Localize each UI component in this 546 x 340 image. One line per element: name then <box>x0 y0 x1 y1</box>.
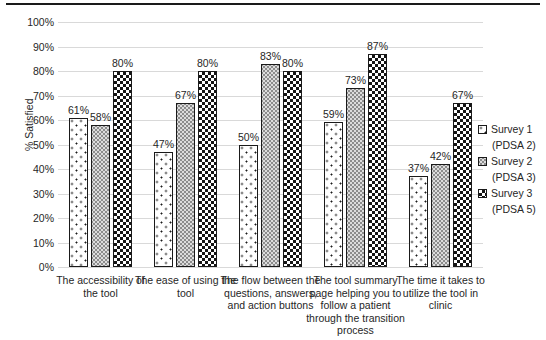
category-label-5: The time it takes to utilize the tool in… <box>385 274 497 312</box>
bar-value-label: 80% <box>112 58 133 69</box>
legend-entry-survey-1: Survey 1 <box>478 121 536 137</box>
bar-value-label: 67% <box>452 90 473 101</box>
bar-value-label: 61% <box>68 105 89 116</box>
legend-swatch-icon <box>478 125 487 134</box>
y-axis-tick-label: 80% <box>0 65 54 77</box>
legend-label: Survey 3 <box>491 185 532 201</box>
y-axis-tick-label: 90% <box>0 41 54 53</box>
bar-survey-1-cat4 <box>324 122 343 267</box>
bar-value-label: 58% <box>90 112 111 123</box>
y-axis-tick-label: 70% <box>0 90 54 102</box>
bar-value-label: 83% <box>260 51 281 62</box>
bar-survey-2-cat5 <box>431 164 450 267</box>
bar-survey-1-cat1 <box>69 118 88 267</box>
y-axis-tick-label: 100% <box>0 16 54 28</box>
bar-value-label: 37% <box>408 163 429 174</box>
bar-survey-1-cat5 <box>409 176 428 267</box>
y-axis-tick-label: 60% <box>0 114 54 126</box>
bar-value-label: 50% <box>238 132 259 143</box>
chart-legend: Survey 1(PDSA 2)Survey 2(PDSA 3)Survey 3… <box>478 121 536 217</box>
gridline <box>58 267 483 268</box>
y-axis-tick-label: 20% <box>0 212 54 224</box>
bar-value-label: 73% <box>345 75 366 86</box>
y-axis-tick-label: 30% <box>0 188 54 200</box>
legend-swatch-icon <box>478 157 487 166</box>
legend-entry-survey-2: Survey 2 <box>478 153 536 169</box>
y-axis-tick-label: 40% <box>0 163 54 175</box>
bar-survey-3-cat5 <box>453 103 472 267</box>
gridline <box>58 47 483 48</box>
chart-page: % Satisfied 100%90%80%70%60%50%40%30%20%… <box>0 0 546 340</box>
bar-value-label: 87% <box>367 41 388 52</box>
y-axis-tick-label: 10% <box>0 237 54 249</box>
legend-sublabel: (PDSA 5) <box>478 201 536 217</box>
legend-swatch-icon <box>478 189 487 198</box>
bar-survey-2-cat1 <box>91 125 110 267</box>
plot-area: 61%47%50%59%37%58%67%83%73%42%80%80%80%8… <box>58 22 483 267</box>
bar-survey-2-cat4 <box>346 88 365 267</box>
gridline <box>58 22 483 23</box>
y-axis-tick-label: 50% <box>0 139 54 151</box>
legend-label: Survey 1 <box>491 121 532 137</box>
bar-survey-2-cat3 <box>261 64 280 267</box>
legend-sublabel: (PDSA 3) <box>478 169 536 185</box>
bar-survey-3-cat3 <box>283 71 302 267</box>
bar-survey-3-cat4 <box>368 54 387 267</box>
bar-survey-3-cat1 <box>113 71 132 267</box>
bar-value-label: 42% <box>430 151 451 162</box>
legend-sublabel: (PDSA 2) <box>478 137 536 153</box>
bar-value-label: 80% <box>197 58 218 69</box>
legend-label: Survey 2 <box>491 153 532 169</box>
bar-value-label: 80% <box>282 58 303 69</box>
y-axis-tick-label: 0% <box>0 261 54 273</box>
bar-survey-1-cat3 <box>239 145 258 268</box>
bar-survey-1-cat2 <box>154 152 173 267</box>
bar-value-label: 47% <box>153 139 174 150</box>
legend-entry-survey-3: Survey 3 <box>478 185 536 201</box>
bar-value-label: 59% <box>323 109 344 120</box>
bar-survey-2-cat2 <box>176 103 195 267</box>
page-top-rule <box>6 3 540 5</box>
bar-value-label: 67% <box>175 90 196 101</box>
bar-survey-3-cat2 <box>198 71 217 267</box>
